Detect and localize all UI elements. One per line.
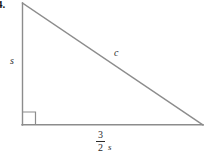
- base-fraction-numerator: 3: [97, 130, 104, 141]
- base-fraction-denominator: 2: [97, 142, 104, 153]
- triangle-side-hypotenuse: [23, 3, 204, 125]
- right-angle-marker-icon: [23, 112, 36, 125]
- figure-canvas: 4. s c 3 2 s: [0, 0, 208, 161]
- problem-number-label: 4.: [0, 0, 5, 10]
- base-length-label: 3 2 s: [96, 130, 112, 153]
- vertical-leg-label: s: [10, 55, 14, 66]
- base-variable-label: s: [108, 142, 112, 153]
- triangle-outline: [22, 3, 203, 125]
- hypotenuse-label: c: [114, 47, 118, 58]
- base-fraction: 3 2: [96, 130, 105, 153]
